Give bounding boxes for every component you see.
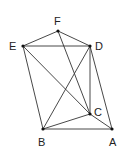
segment-EF [23,31,58,46]
point-A [110,127,113,130]
point-E [21,44,24,47]
label-E: E [9,40,16,52]
segment-EB [23,46,43,129]
point-C [88,112,91,115]
point-B [41,127,44,130]
label-D: D [95,40,103,52]
diagram-canvas: ABCDEF [0,0,122,160]
label-F: F [54,15,61,27]
label-A: A [109,136,117,148]
point-F [56,29,59,32]
label-B: B [38,136,45,148]
labels: ABCDEF [9,15,117,148]
segment-EC [23,46,90,114]
geometry-diagram: ABCDEF [0,0,122,160]
point-D [88,44,91,47]
label-C: C [94,106,102,118]
